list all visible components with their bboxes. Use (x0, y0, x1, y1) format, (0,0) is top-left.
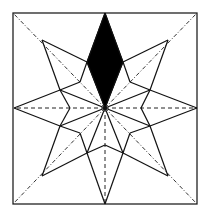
inner-fold (130, 126, 150, 133)
star-edge (87, 153, 105, 204)
inner-fold (60, 108, 70, 126)
star-edge (14, 90, 60, 108)
inner-fold (80, 62, 87, 82)
inner-fold (130, 82, 150, 90)
inner-fold (60, 82, 80, 90)
diagonal-line (13, 108, 105, 204)
inner-fold (60, 126, 80, 133)
octagram-figure (0, 0, 206, 217)
star-edge (14, 108, 60, 126)
star-edge (105, 153, 123, 204)
star-edge (150, 108, 197, 126)
inner-fold (80, 133, 87, 153)
shoulder-to-center (60, 90, 105, 108)
inner-fold (60, 90, 70, 108)
inner-fold (123, 133, 130, 153)
diagonal-line (105, 108, 197, 204)
shoulder-to-center (105, 90, 150, 108)
inner-fold (123, 62, 130, 82)
star-edge (150, 90, 197, 108)
shaded-top-point (87, 13, 123, 108)
